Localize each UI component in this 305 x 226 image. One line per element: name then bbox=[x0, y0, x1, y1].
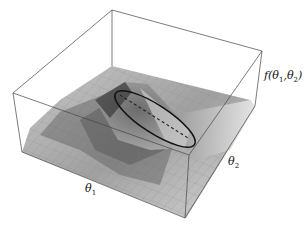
z-label-part: ) bbox=[298, 69, 302, 82]
y-axis-label: θ2 bbox=[228, 155, 239, 170]
z-label-part: f(θ bbox=[264, 69, 279, 82]
z-label-part: ,θ bbox=[283, 69, 293, 82]
x-label-main: θ bbox=[85, 182, 92, 195]
x-axis-label: θ1 bbox=[85, 182, 96, 197]
z-axis-label: f(θ1,θ2) bbox=[264, 69, 302, 84]
y-label-sub: 2 bbox=[235, 162, 239, 170]
surface-plot: f(θ1,θ2) θ2 θ1 bbox=[0, 0, 305, 226]
x-label-sub: 1 bbox=[92, 189, 96, 197]
plot-canvas bbox=[0, 0, 305, 226]
y-label-main: θ bbox=[228, 155, 235, 168]
surface bbox=[22, 66, 255, 218]
